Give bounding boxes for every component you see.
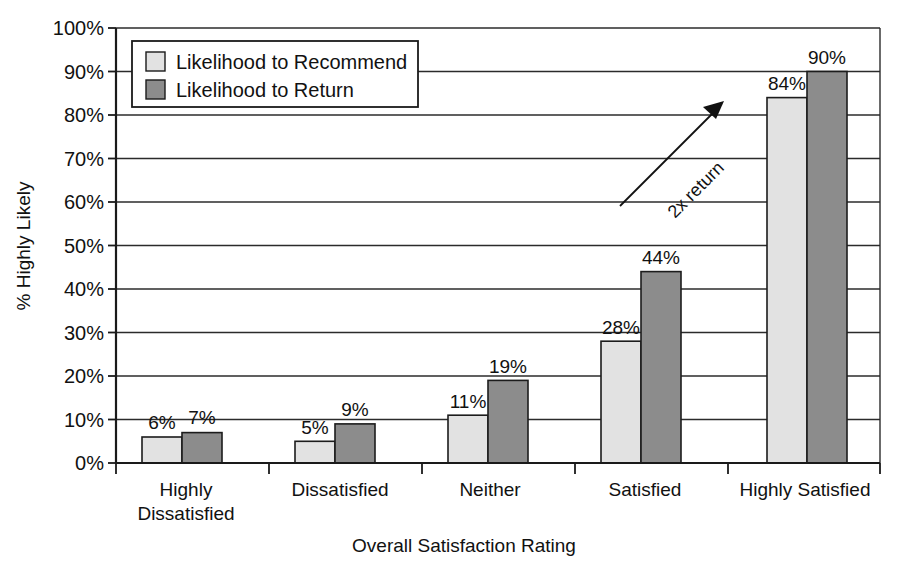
value-label-return-satisfied: 44% <box>642 247 680 268</box>
cat-label-neither: Neither <box>459 479 521 500</box>
legend-swatch-return <box>146 80 165 99</box>
y-tick-label-20: 20% <box>64 365 104 387</box>
y-tick-label-80: 80% <box>64 104 104 126</box>
annotation-arrow-head <box>703 101 724 119</box>
bars-group-highly-satisfied: 84% 90% <box>767 47 847 463</box>
x-axis-tickmarks <box>116 463 880 474</box>
bar-return-highly-satisfied[interactable] <box>807 72 847 464</box>
bar-recommend-neither[interactable] <box>448 415 488 463</box>
y-tick-label-70: 70% <box>64 148 104 170</box>
y-tick-label-60: 60% <box>64 191 104 213</box>
y-tick-label-50: 50% <box>64 235 104 257</box>
bars-group-dissatisfied: 5% 9% <box>295 399 375 463</box>
cat-label-highly-dissatisfied-line2: Dissatisfied <box>137 503 234 524</box>
bar-recommend-highly-dissatisfied[interactable] <box>142 437 182 463</box>
y-tick-label-90: 90% <box>64 61 104 83</box>
y-tick-label-100: 100% <box>53 17 104 39</box>
bar-return-neither[interactable] <box>488 380 528 463</box>
y-axis-tick-labels: 100% 90% 80% 70% 60% 50% 40% 30% 20% 10%… <box>53 17 104 474</box>
y-tick-label-0: 0% <box>75 452 104 474</box>
value-label-recommend-highly-satisfied: 84% <box>768 73 806 94</box>
cat-label-highly-dissatisfied-line1: Highly <box>160 479 213 500</box>
bars-group-satisfied: 28% 44% <box>601 247 681 463</box>
legend-label-recommend: Likelihood to Recommend <box>176 51 407 73</box>
bars-group-highly-dissatisfied: 6% 7% <box>142 407 222 463</box>
value-label-return-highly-dissatisfied: 7% <box>188 407 216 428</box>
bar-recommend-highly-satisfied[interactable] <box>767 98 807 463</box>
value-label-return-dissatisfied: 9% <box>341 399 369 420</box>
bar-recommend-dissatisfied[interactable] <box>295 441 335 463</box>
y-tick-label-40: 40% <box>64 278 104 300</box>
y-axis-tickmarks <box>108 28 116 463</box>
legend-swatch-recommend <box>146 52 165 71</box>
cat-label-dissatisfied: Dissatisfied <box>291 479 388 500</box>
value-label-recommend-neither: 11% <box>450 391 487 412</box>
x-axis-category-labels: Highly Dissatisfied Dissatisfied Neither… <box>137 479 870 524</box>
bar-return-highly-dissatisfied[interactable] <box>182 433 222 463</box>
y-axis-title: % Highly Likely <box>13 181 34 310</box>
value-label-recommend-dissatisfied: 5% <box>301 417 329 438</box>
annotation-2x-return: 2x return <box>620 101 728 222</box>
bar-recommend-satisfied[interactable] <box>601 341 641 463</box>
cat-label-satisfied: Satisfied <box>609 479 682 500</box>
chart-canvas: 100% 90% 80% 70% 60% 50% 40% 30% 20% 10%… <box>0 0 901 569</box>
bar-chart: 100% 90% 80% 70% 60% 50% 40% 30% 20% 10%… <box>0 0 901 569</box>
value-label-return-highly-satisfied: 90% <box>808 47 846 68</box>
legend-label-return: Likelihood to Return <box>176 79 354 101</box>
value-label-return-neither: 19% <box>489 356 527 377</box>
value-label-recommend-satisfied: 28% <box>602 317 640 338</box>
y-tick-label-10: 10% <box>64 409 104 431</box>
bar-return-satisfied[interactable] <box>641 272 681 463</box>
x-axis-title: Overall Satisfaction Rating <box>352 535 576 556</box>
cat-label-highly-satisfied: Highly Satisfied <box>740 479 871 500</box>
legend: Likelihood to Recommend Likelihood to Re… <box>132 41 418 107</box>
value-label-recommend-highly-dissatisfied: 6% <box>148 412 176 433</box>
annotation-label: 2x return <box>664 158 728 222</box>
bars-group-neither: 11% 19% <box>448 356 528 463</box>
bar-return-dissatisfied[interactable] <box>335 424 375 463</box>
y-tick-label-30: 30% <box>64 322 104 344</box>
